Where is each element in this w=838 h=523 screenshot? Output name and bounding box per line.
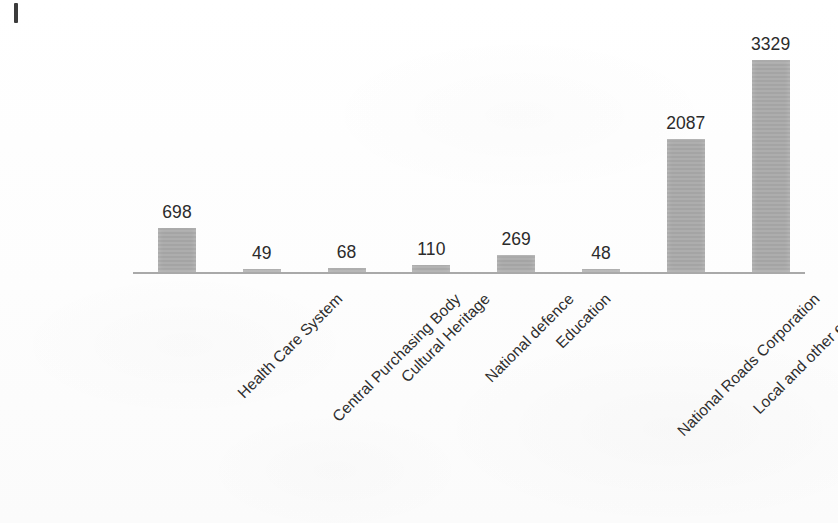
bar-value-label: 2087	[641, 113, 731, 134]
bar-value-label: 110	[386, 239, 476, 260]
bar	[328, 268, 366, 272]
x-axis-category-label: Health Care System	[234, 290, 346, 402]
bar-value-label: 48	[556, 243, 646, 264]
bar-value-label: 269	[471, 229, 561, 250]
x-axis-category-label: Central Purchasing Body	[329, 290, 465, 426]
bar-chart: 69849681102694820873329 Health Care Syst…	[0, 0, 838, 523]
bar-value-label: 49	[217, 243, 307, 264]
bar	[158, 228, 196, 272]
bar	[412, 265, 450, 272]
bar	[752, 60, 790, 272]
bar-value-label: 3329	[726, 34, 816, 55]
bar	[243, 269, 281, 272]
bar	[497, 255, 535, 272]
bar	[667, 139, 705, 272]
bar	[582, 269, 620, 272]
bar-value-label: 68	[302, 242, 392, 263]
x-axis-baseline	[133, 272, 805, 274]
bar-value-label: 698	[132, 202, 222, 223]
